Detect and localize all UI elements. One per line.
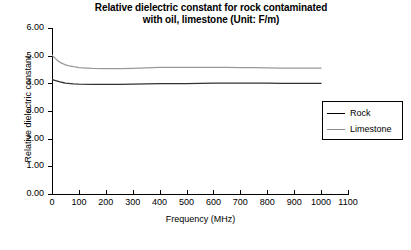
x-tick-label: 1100 bbox=[328, 198, 368, 207]
x-axis-title: Frequency (MHz) bbox=[52, 214, 349, 224]
chart-legend: Rock Limestone bbox=[322, 101, 403, 140]
series-line-rock bbox=[52, 79, 321, 84]
chart-title-line-1: Relative dielectric constant for rock co… bbox=[46, 2, 376, 14]
series-line-limestone bbox=[52, 55, 321, 69]
series-lines bbox=[52, 28, 348, 194]
y-tick-label: 5.00 bbox=[10, 51, 44, 60]
chart-title-line-2: with oil, limestone (Unit: F/m) bbox=[46, 14, 376, 26]
legend-item-limestone[interactable]: Limestone bbox=[327, 121, 398, 137]
legend-swatch-rock-icon bbox=[327, 113, 345, 114]
legend-label-limestone: Limestone bbox=[350, 125, 392, 134]
chart-title: Relative dielectric constant for rock co… bbox=[46, 2, 376, 26]
legend-item-rock[interactable]: Rock bbox=[327, 105, 398, 121]
y-tick-label: 6.00 bbox=[10, 23, 44, 32]
y-tick bbox=[48, 194, 52, 195]
y-tick-label: 2.00 bbox=[10, 134, 44, 143]
x-tick bbox=[348, 190, 349, 194]
x-axis-line bbox=[52, 194, 349, 195]
plot-area bbox=[52, 28, 348, 194]
chart-container: Relative dielectric constant for rock co… bbox=[0, 0, 411, 250]
y-tick-label: 0.00 bbox=[10, 189, 44, 198]
y-tick-label: 1.00 bbox=[10, 161, 44, 170]
y-tick-label: 3.00 bbox=[10, 106, 44, 115]
legend-swatch-limestone-icon bbox=[327, 129, 345, 130]
legend-label-rock: Rock bbox=[350, 109, 371, 118]
y-tick-label: 4.00 bbox=[10, 78, 44, 87]
